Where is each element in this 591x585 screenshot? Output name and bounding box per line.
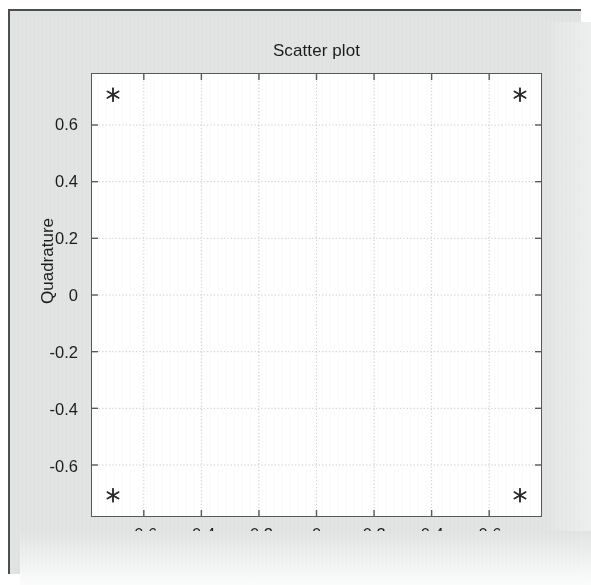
- y-tick-label: -0.4: [10, 399, 78, 418]
- x-tick-label: -0.6: [129, 525, 157, 544]
- data-point-marker: [107, 88, 118, 101]
- x-tick-label: -0.4: [187, 525, 215, 544]
- y-tick-label: 0.4: [10, 172, 78, 191]
- scatter-data-layer: [92, 74, 541, 516]
- y-tick-label: -0.2: [10, 342, 78, 361]
- y-axis-title: Quadrature: [38, 201, 58, 321]
- y-tick-label: -0.6: [10, 456, 78, 475]
- x-tick-label: 0.6: [478, 525, 501, 544]
- y-tick-label: 0.6: [10, 115, 78, 134]
- data-point-marker: [514, 489, 525, 502]
- x-tick-label: 0.2: [363, 525, 386, 544]
- x-tick-label: -0.2: [244, 525, 272, 544]
- x-tick-label: 0.4: [421, 525, 444, 544]
- plot-title: Scatter plot: [91, 41, 542, 61]
- x-axis-title: In-Phase: [91, 555, 542, 575]
- page-right-shading: [544, 22, 591, 542]
- data-point-marker: [107, 489, 118, 502]
- x-tick-label: 0: [312, 525, 321, 544]
- figure-canvas: Scatter plot -0.6-0.4-0.200.20.40.6 -0.6…: [8, 9, 581, 574]
- plot-axes-area: [91, 73, 542, 517]
- data-point-marker: [514, 88, 525, 101]
